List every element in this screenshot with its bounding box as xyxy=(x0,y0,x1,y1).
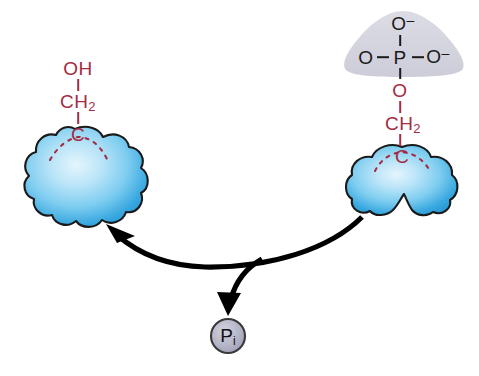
main-reaction-arrowhead xyxy=(106,224,135,243)
phosphorus-label: P xyxy=(393,48,406,67)
bond-p-top-o xyxy=(399,35,401,46)
dephosphorylation-figure: OH CH2 C O– O P O– O CH2 C Pi xyxy=(0,0,479,376)
phosphate-top-oxygen: O– xyxy=(391,14,415,35)
left-methylene-label: CH2 xyxy=(60,92,96,111)
hydroxyl-label: OH xyxy=(63,59,93,78)
left-carbon-label: C xyxy=(71,125,85,144)
bond-p-rightO xyxy=(412,56,424,58)
inorganic-phosphate-label: Pi xyxy=(220,325,235,347)
bond-ch2-c-right xyxy=(399,134,401,146)
bond-leftO-p xyxy=(377,56,389,58)
phosphate-left-oxygen: O xyxy=(358,48,373,67)
phosphate-right-oxygen: O– xyxy=(426,47,450,68)
protein-blobs-layer xyxy=(0,0,479,376)
ester-oxygen-label: O xyxy=(392,81,407,100)
bond-oh-ch2 xyxy=(77,79,79,91)
main-reaction-arrow xyxy=(117,217,362,267)
right-carbon-label: C xyxy=(395,147,409,166)
bond-o-ch2-right xyxy=(399,101,401,113)
bond-ch2-c-left xyxy=(77,112,79,124)
bond-p-ester-o xyxy=(399,68,401,79)
phosphate-release-arrowhead xyxy=(217,292,241,316)
protein-blob-left xyxy=(24,127,147,227)
right-methylene-label: CH2 xyxy=(385,114,421,133)
